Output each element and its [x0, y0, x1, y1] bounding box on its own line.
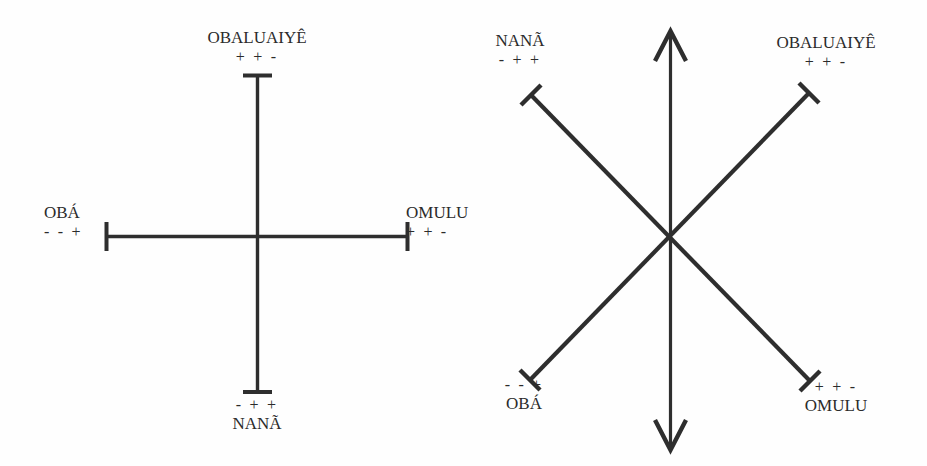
left-node-bottom-signs: - + +	[236, 396, 278, 414]
right-node-top-left-signs: - + +	[499, 51, 541, 69]
left-node-left: OBÁ - - +	[44, 203, 102, 241]
right-node-top-right: OBALUAIYÊ + + -	[763, 33, 889, 71]
right-node-bottom-right-signs: + + -	[815, 378, 857, 396]
right-node-bottom-right-name: OMULU	[805, 396, 867, 416]
right-node-bottom-right: + + - OMULU	[790, 378, 882, 416]
right-node-top-right-name: OBALUAIYÊ	[776, 33, 875, 53]
left-node-top-signs: + + -	[236, 48, 278, 66]
left-node-right-name: OMULU	[406, 203, 468, 223]
right-node-bottom-left-signs: - - +	[505, 376, 544, 394]
left-node-bottom-name: NANÃ	[232, 414, 281, 434]
left-node-right-signs: + + -	[406, 223, 448, 241]
left-node-bottom: - + + NANÃ	[206, 396, 308, 434]
left-node-left-name: OBÁ	[44, 203, 80, 223]
right-node-top-left-name: NANÃ	[495, 31, 544, 51]
left-cross-diagram	[105, 74, 409, 393]
right-node-bottom-left-name: OBÁ	[506, 394, 542, 414]
left-node-left-signs: - - +	[44, 223, 83, 241]
left-node-top-name: OBALUAIYÊ	[207, 28, 306, 48]
left-node-top: OBALUAIYÊ + + -	[194, 28, 320, 66]
right-node-bottom-left: - - + OBÁ	[482, 376, 566, 414]
right-node-top-right-signs: + + -	[805, 53, 847, 71]
figure-root: OBALUAIYÊ + + - OBÁ - - + OMULU + + - - …	[0, 0, 927, 466]
left-node-right: OMULU + + -	[406, 203, 486, 241]
right-node-top-left: NANÃ - + +	[470, 31, 570, 69]
